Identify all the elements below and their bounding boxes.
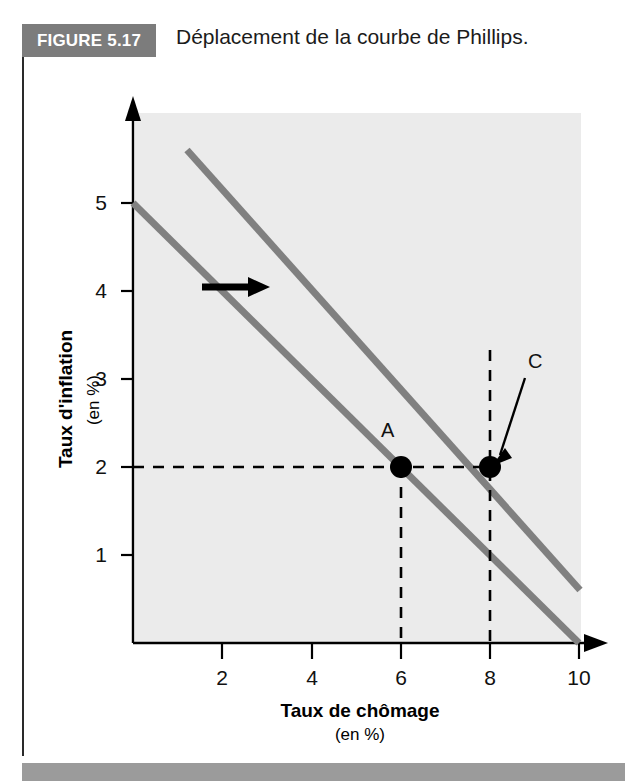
x-axis-arrowhead — [584, 634, 608, 652]
phillips-curve-chart: 1 2 3 4 5 2 4 6 8 10 A C Taux d'inflatio… — [0, 0, 625, 760]
x-tick-label-2: 2 — [205, 666, 239, 690]
x-tick-label-8: 8 — [473, 666, 507, 690]
data-point-c[interactable] — [479, 456, 501, 478]
x-tick-label-6: 6 — [384, 666, 418, 690]
y-axis-title-group: Taux d'inflation (en %) — [18, 290, 138, 510]
figure-container: FIGURE 5.17 Déplacement de la courbe de … — [0, 0, 625, 781]
point-label-c: C — [528, 350, 542, 373]
y-axis-subtitle: (en %) — [84, 290, 104, 510]
point-label-a: A — [381, 419, 394, 442]
y-tick-label-1: 1 — [84, 543, 118, 567]
y-tick-label-5: 5 — [84, 191, 118, 215]
x-axis-title: Taux de chômage — [200, 700, 520, 722]
x-tick-label-10: 10 — [562, 666, 596, 690]
y-axis-title: Taux d'inflation — [55, 289, 77, 509]
data-point-a[interactable] — [390, 456, 412, 478]
y-axis-arrowhead — [125, 96, 141, 121]
x-axis-subtitle: (en %) — [200, 725, 520, 745]
x-tick-label-4: 4 — [295, 666, 329, 690]
bottom-accent-bar — [22, 763, 625, 781]
plot-background — [135, 113, 581, 643]
